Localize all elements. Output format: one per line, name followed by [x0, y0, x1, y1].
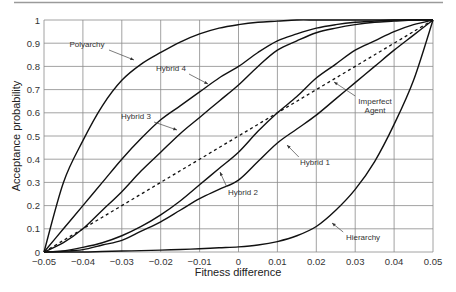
y-axis-ticks: 00.10.20.30.40.50.60.70.80.91: [27, 15, 40, 258]
arrowhead-icon: [334, 82, 338, 85]
x-tick-label: −0.05: [32, 256, 56, 267]
curve-label: Hybrid 3: [121, 112, 151, 121]
curve-label: Hybrid 4: [156, 64, 186, 73]
annotation-leader-line: [334, 82, 355, 96]
x-axis-title: Fitness difference: [195, 266, 282, 278]
curve-label: Hybrid 2: [228, 188, 258, 197]
y-tick-label: 0.5: [27, 131, 40, 142]
y-tick-label: 0.6: [27, 107, 40, 118]
curve-label: Imperfect: [358, 97, 392, 106]
y-tick-label: 0.7: [27, 84, 40, 95]
acceptance-probability-chart: 00.10.20.30.40.50.60.70.80.91 −0.05−0.04…: [0, 0, 456, 292]
x-tick-label: 0.05: [424, 256, 443, 267]
y-axis-title: Acceptance probability: [10, 80, 22, 191]
y-tick-label: 0.2: [27, 200, 40, 211]
curve-label: Polyarchy: [69, 40, 104, 49]
y-tick-label: 0.8: [27, 61, 40, 72]
curve-label: Agent: [365, 106, 387, 115]
curve-label: Hybrid 1: [300, 158, 330, 167]
x-tick-label: 0.04: [385, 256, 404, 267]
arrowhead-icon: [173, 127, 177, 130]
y-tick-label: 1: [35, 15, 40, 26]
y-tick-label: 0.1: [27, 223, 40, 234]
x-tick-label: 0.03: [346, 256, 365, 267]
arrowhead-icon: [130, 57, 134, 60]
y-tick-label: 0.3: [27, 177, 40, 188]
x-tick-label: −0.02: [149, 256, 173, 267]
x-tick-label: −0.04: [71, 256, 95, 267]
y-tick-label: 0.9: [27, 38, 40, 49]
curve-label: Hierarchy: [346, 233, 380, 242]
x-tick-label: 0.02: [307, 256, 326, 267]
y-tick-label: 0.4: [27, 154, 40, 165]
x-tick-label: −0.03: [110, 256, 134, 267]
